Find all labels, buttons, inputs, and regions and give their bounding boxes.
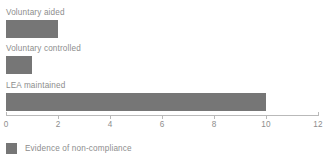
- legend-label-non-compliance: Evidence of non-compliance: [25, 144, 132, 153]
- x-axis-tick-label: 4: [108, 120, 113, 129]
- x-axis-tick-label: 2: [56, 120, 61, 129]
- x-axis-tick: [266, 115, 267, 119]
- x-axis-tick: [318, 112, 319, 116]
- bar-voluntary-aided: [6, 20, 58, 38]
- bar-group-voluntary-controlled: Voluntary controlled: [6, 44, 327, 74]
- x-axis-tick-label: 12: [313, 120, 322, 129]
- plot-area: Voluntary aided Voluntary controlled LEA…: [0, 0, 327, 116]
- x-axis-tick: [162, 115, 163, 119]
- category-label-voluntary-aided: Voluntary aided: [6, 8, 327, 18]
- bar-chart: Voluntary aided Voluntary controlled LEA…: [0, 0, 327, 163]
- x-axis-tick-label: 10: [261, 120, 270, 129]
- x-axis-tick-label: 6: [160, 120, 165, 129]
- legend: Evidence of non-compliance: [6, 143, 132, 154]
- legend-swatch-non-compliance: [6, 143, 17, 154]
- x-axis-tick-label: 0: [4, 120, 9, 129]
- bar-lea-maintained: [6, 93, 266, 111]
- bar-group-voluntary-aided: Voluntary aided: [6, 8, 327, 38]
- x-axis-tick: [110, 115, 111, 119]
- x-axis-tick-label: 8: [212, 120, 217, 129]
- bar-group-lea-maintained: LEA maintained: [6, 81, 327, 111]
- bar-voluntary-controlled: [6, 56, 32, 74]
- x-axis: 024681012: [6, 115, 318, 137]
- category-label-lea-maintained: LEA maintained: [6, 81, 327, 91]
- x-axis-tick: [58, 115, 59, 119]
- x-axis-tick: [214, 115, 215, 119]
- category-label-voluntary-controlled: Voluntary controlled: [6, 44, 327, 54]
- x-axis-tick: [6, 112, 7, 116]
